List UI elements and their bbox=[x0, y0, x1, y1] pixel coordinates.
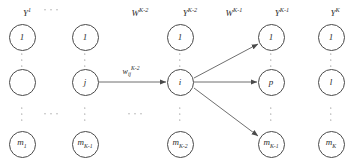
node-5-middle-label-base: l bbox=[330, 77, 333, 87]
node-1-bottom[interactable]: m1 bbox=[9, 131, 36, 158]
node-2-bottom[interactable]: mK-1 bbox=[72, 131, 99, 158]
node-3-top[interactable]: 1 bbox=[167, 24, 194, 51]
node-2-top[interactable]: 1 bbox=[72, 24, 99, 51]
node-5-top-label: 1 bbox=[329, 33, 334, 42]
node-2-middle-label: j bbox=[84, 78, 87, 87]
node-1-top-label: 1 bbox=[20, 33, 25, 42]
node-4-top-label: 1 bbox=[269, 33, 274, 42]
node-2-bottom-label-subscript: K-1 bbox=[84, 143, 93, 149]
node-2-top-label-base: 1 bbox=[83, 32, 88, 42]
node-3-bottom-label-subscript: K-2 bbox=[179, 143, 188, 149]
node-5-top[interactable]: 1 bbox=[318, 24, 345, 51]
edge-i-to-top bbox=[194, 44, 258, 78]
node-4-bottom-label-subscript: K-1 bbox=[270, 143, 279, 149]
node-3-middle-label: i bbox=[179, 78, 182, 87]
node-1-middle[interactable] bbox=[9, 69, 36, 96]
node-4-bottom-label: mK-1 bbox=[263, 138, 278, 150]
node-3-middle-label-base: i bbox=[179, 77, 182, 87]
node-4-middle-label-base: p bbox=[269, 77, 274, 87]
vdots-col2-lower bbox=[84, 108, 85, 121]
node-2-middle-label-base: j bbox=[84, 77, 87, 87]
vdots-col2-upper bbox=[84, 54, 85, 67]
node-5-bottom[interactable]: mK bbox=[318, 131, 345, 158]
hdots-top-between-col1-col2 bbox=[45, 9, 58, 10]
node-2-top-label: 1 bbox=[83, 33, 88, 42]
vdots-col3-upper bbox=[179, 54, 180, 67]
hdots-bottom-between-col2-col3 bbox=[129, 113, 142, 114]
node-1-top-label-base: 1 bbox=[20, 32, 25, 42]
node-5-bottom-label-subscript: K bbox=[332, 143, 336, 149]
vdots-col4-upper bbox=[270, 54, 271, 67]
node-5-middle[interactable]: l bbox=[318, 69, 345, 96]
node-5-bottom-label: mK bbox=[326, 138, 336, 150]
node-2-bottom-label: mK-1 bbox=[77, 138, 92, 150]
node-4-bottom[interactable]: mK-1 bbox=[258, 131, 285, 158]
node-3-middle[interactable]: i bbox=[167, 69, 194, 96]
vdots-col5-upper bbox=[330, 54, 331, 67]
hdots-bottom-between-col1-col2 bbox=[45, 113, 58, 114]
vdots-col5-lower bbox=[330, 108, 331, 121]
node-3-top-label: 1 bbox=[178, 33, 183, 42]
vdots-col4-lower bbox=[270, 108, 271, 121]
node-3-bottom[interactable]: mK-2 bbox=[167, 131, 194, 158]
node-3-bottom-label: mK-2 bbox=[172, 138, 187, 150]
node-3-top-label-base: 1 bbox=[178, 32, 183, 42]
node-2-middle[interactable]: j bbox=[72, 69, 99, 96]
node-1-bottom-label-subscript: 1 bbox=[24, 143, 27, 149]
node-4-middle-label: p bbox=[269, 78, 274, 87]
node-4-top[interactable]: 1 bbox=[258, 24, 285, 51]
edge-i-to-bottom bbox=[194, 88, 258, 136]
node-4-middle[interactable]: p bbox=[258, 69, 285, 96]
vdots-col1-upper bbox=[21, 54, 22, 67]
node-1-top[interactable]: 1 bbox=[9, 24, 36, 51]
node-4-top-label-base: 1 bbox=[269, 32, 274, 42]
node-5-middle-label: l bbox=[330, 78, 333, 87]
node-1-bottom-label: m1 bbox=[17, 138, 26, 150]
node-5-top-label-base: 1 bbox=[329, 32, 334, 42]
neural-network-diagram: Y1WK-2YK-2WK-1YK-1YK wijK-2 1m11jmK-11im… bbox=[0, 0, 353, 165]
vdots-col1-lower bbox=[21, 108, 22, 121]
vdots-col3-lower bbox=[179, 108, 180, 121]
